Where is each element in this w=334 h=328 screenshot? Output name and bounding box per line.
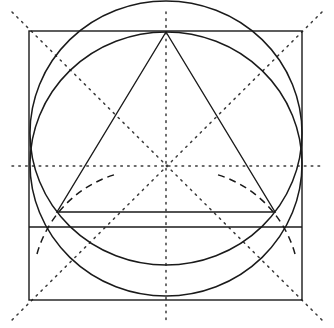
canvas-background — [0, 0, 334, 328]
diagram-root — [0, 0, 334, 328]
geometric-construction-figure — [0, 0, 334, 328]
